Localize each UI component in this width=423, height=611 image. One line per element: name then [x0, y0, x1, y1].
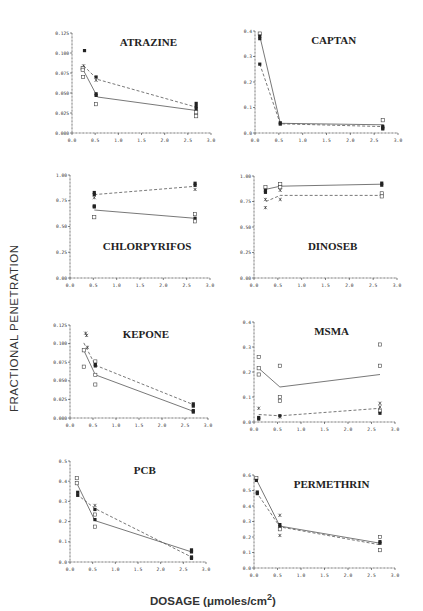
x-tick-label: 3.0: [204, 423, 213, 428]
axes: 0.00.51.01.52.02.53.00.000.250.500.751.0…: [240, 174, 401, 288]
chart-svg: 0.00.51.01.52.02.53.00.000.250.500.751.0…: [0, 0, 423, 611]
x-tick-label: 0.5: [273, 573, 282, 578]
data-points: [264, 182, 384, 210]
y-tick-label: 0.4: [59, 479, 68, 484]
open-square-marker: [193, 213, 196, 216]
x-tick-label: 2.5: [367, 427, 376, 432]
open-square-marker: [264, 186, 267, 189]
dashed-series-line: [259, 408, 380, 416]
filled-square-marker: [190, 548, 193, 551]
x-tick-label: 2.5: [183, 283, 192, 288]
x-tick-label: 0.0: [250, 283, 259, 288]
x-tick-label: 1.5: [320, 427, 329, 432]
data-points: [258, 32, 384, 131]
filled-square-marker: [255, 479, 258, 482]
star-marker: [279, 198, 282, 201]
open-square-marker: [94, 373, 97, 376]
open-square-marker: [257, 373, 260, 376]
chart-title: CAPTAN: [311, 34, 356, 46]
x-tick-label: 2.0: [344, 573, 353, 578]
filled-square-marker: [278, 414, 281, 417]
star-marker: [278, 534, 281, 537]
filled-square-marker: [279, 122, 282, 125]
axes: 0.00.51.01.52.02.53.00.00.10.20.30.4: [244, 29, 403, 143]
x-tick-label: 0.0: [251, 138, 260, 143]
x-tick-label: 2.0: [158, 423, 167, 428]
y-tick-label: 0.025: [55, 111, 69, 116]
chart-svg: 0.00.51.01.52.02.53.00.00.10.20.30.40.50…: [0, 0, 423, 611]
open-square-marker: [257, 355, 260, 358]
x-tick-label: 3.0: [202, 567, 211, 572]
x-tick-label: 2.0: [346, 138, 355, 143]
x-axis-label-unit: μmoles/cm: [207, 595, 267, 607]
open-square-marker: [279, 183, 282, 186]
y-tick-label: 0.100: [55, 51, 69, 56]
open-square-marker: [193, 220, 196, 223]
open-square-marker: [378, 535, 381, 538]
filled-square-marker: [190, 550, 193, 553]
x-tick-label: 2.0: [161, 138, 170, 143]
data-points: [81, 49, 198, 118]
filled-square-marker: [380, 182, 383, 185]
y-tick-label: 1.00: [56, 173, 67, 178]
open-square-marker: [94, 383, 97, 386]
filled-square-marker: [94, 94, 97, 97]
axes: 0.00.51.01.52.02.53.00.0000.0250.0500.07…: [55, 31, 215, 143]
filled-square-marker: [193, 184, 196, 187]
filled-square-marker: [195, 102, 198, 105]
x-tick-label: 2.5: [179, 567, 188, 572]
dashed-series-line: [84, 66, 198, 108]
filled-square-marker: [76, 494, 79, 497]
star-marker: [94, 79, 97, 82]
y-tick-label: 0.00: [56, 276, 67, 281]
filled-square-marker: [190, 555, 193, 558]
x-tick-label: 0.0: [66, 423, 75, 428]
y-tick-label: 0.3: [243, 519, 252, 524]
x-tick-label: 3.0: [207, 138, 216, 143]
filled-square-marker: [256, 490, 259, 493]
open-square-marker: [381, 119, 384, 122]
y-tick-label: 0.1: [59, 539, 68, 544]
x-tick-label: 1.0: [299, 138, 308, 143]
star-marker: [86, 346, 89, 349]
filled-square-marker: [378, 540, 381, 543]
y-tick-label: 1.00: [240, 174, 251, 179]
chart-panel-permethrin: 0.00.51.01.52.02.53.00.00.10.20.30.40.50…: [0, 0, 423, 611]
open-square-marker: [81, 68, 84, 71]
x-tick-label: 0.5: [91, 138, 100, 143]
open-square-marker: [380, 192, 383, 195]
x-tick-label: 1.5: [321, 283, 330, 288]
dashed-series-line: [260, 64, 384, 127]
chart-title: KEPONE: [123, 328, 169, 340]
filled-square-marker: [190, 557, 193, 560]
filled-square-marker: [264, 189, 267, 192]
filled-square-marker: [278, 525, 281, 528]
filled-square-marker: [192, 404, 195, 407]
filled-square-marker: [195, 107, 198, 110]
filled-square-marker: [257, 416, 260, 419]
y-tick-label: 0.075: [55, 71, 69, 76]
y-tick-label: 0.0: [243, 566, 252, 571]
filled-square-marker: [381, 126, 384, 129]
filled-square-marker: [380, 184, 383, 187]
open-square-marker: [378, 409, 381, 412]
star-marker: [257, 407, 260, 410]
open-square-marker: [94, 360, 97, 363]
x-tick-label: 1.0: [111, 567, 120, 572]
filled-square-marker: [94, 75, 97, 78]
y-tick-label: 0.0: [59, 560, 68, 565]
x-tick-label: 2.5: [367, 573, 376, 578]
x-tick-label: 3.0: [391, 427, 400, 432]
x-tick-label: 1.5: [136, 283, 145, 288]
y-tick-label: 0.000: [55, 131, 69, 136]
data-points: [82, 332, 195, 414]
filled-square-marker: [195, 105, 198, 108]
chart-title: PERMETHRIN: [294, 478, 370, 490]
y-tick-label: 0.4: [244, 29, 253, 34]
filled-square-marker: [93, 193, 96, 196]
filled-square-marker: [94, 363, 97, 366]
y-tick-label: 0.1: [243, 550, 252, 555]
filled-square-marker: [94, 364, 97, 367]
x-tick-label: 0.5: [89, 423, 98, 428]
x-tick-label: 1.5: [134, 567, 143, 572]
